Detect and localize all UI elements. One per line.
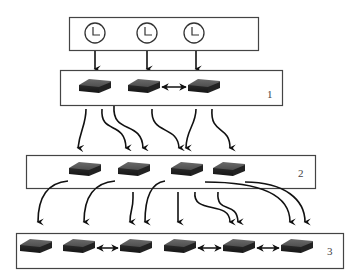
- layer1-to-layer2-arrows: [78, 106, 230, 148]
- clock-arrows: [95, 51, 196, 69]
- diagram-canvas: 1 2: [0, 0, 363, 280]
- layer-1: 1: [61, 71, 283, 106]
- layer-label: 1: [267, 88, 273, 100]
- layer-3: 3: [17, 234, 344, 269]
- layer-label: 3: [327, 245, 333, 257]
- clock-icon: [137, 23, 157, 43]
- clock-icon: [184, 23, 204, 43]
- clock-icon: [85, 23, 105, 43]
- layer-2: 2: [27, 156, 316, 189]
- layer-label: 2: [298, 167, 304, 179]
- clock-layer: [70, 18, 259, 51]
